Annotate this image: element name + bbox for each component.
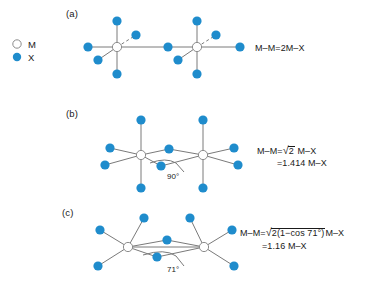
bond-c1-downleft [98,247,128,266]
bond-b1-downleft [105,155,141,165]
equation-a-lhs: M–M= [255,43,281,53]
atom-m [123,242,132,251]
atom-x-shared [164,144,173,153]
atom-x [112,16,121,25]
equation-b-rhs: M–X [298,146,317,156]
bond-b2-downright [203,155,238,165]
atom-x [229,143,238,152]
equation-c-line2: =1.16 M–X [262,241,307,251]
atom-x [235,42,244,51]
atom-x [105,143,114,152]
equation-c-radicand: 2(1−cos 71°) [271,228,326,238]
equation-c2-rhs: 1.16 M–X [267,241,306,251]
legend-m-marker [13,40,21,48]
equation-a-rhs: 2M–X [281,43,305,53]
equation-c-line1: M–M=√2(1−cos 71°)M–X [240,226,344,238]
equation-b2-rhs: 1.414 M–X [282,158,326,168]
atom-m [136,150,145,159]
atom-x-shared [156,161,165,170]
atom-x [93,55,102,64]
figure-root: M X (a) (b) (c) 90° 71° M–M=2M–X M–M=√2 … [0,0,377,283]
atom-x [233,160,242,169]
panel-c-structure [93,213,238,270]
panel-label-a: (a) [66,8,78,19]
legend-x-marker [13,53,21,61]
panel-a-structure [83,16,244,78]
atom-x [227,225,236,234]
atom-x [211,30,220,39]
atom-x-shared [162,235,171,244]
atom-x [93,261,102,270]
atom-x [192,16,201,25]
angle-leader-90 [176,163,184,172]
bond-c2-sharedtop [167,240,204,247]
angle-label-71: 71° [167,265,179,274]
atom-x-shared [152,252,161,261]
atom-x [198,115,207,124]
equation-a: M–M=2M–X [255,43,305,53]
bond-c2-downright [204,247,234,266]
atom-m [112,42,121,51]
atom-x [173,55,182,64]
atom-x [131,30,140,39]
bond-c1-sharedtop [128,240,167,247]
panel-b-structure [100,115,242,192]
atom-x [112,69,121,78]
legend-label-x: X [28,52,34,63]
atom-m [192,42,201,51]
panel-label-c: (c) [62,207,74,218]
legend-label-m: M [28,39,36,50]
panel-label-b: (b) [66,108,78,119]
atom-x [198,183,207,192]
equation-b-line1: M–M=√2 M–X [257,144,316,156]
atom-x [136,183,145,192]
equation-b-lhs: M–M= [257,146,283,156]
bond-b2-sharedtop [169,149,203,155]
atom-x [100,160,109,169]
legend-markers [13,40,21,61]
equation-c-lhs: M–M= [240,228,266,238]
atom-x [95,225,104,234]
atom-x [229,261,238,270]
equation-b-radicand: 2 [288,146,295,156]
equation-c-rhs: M–X [325,228,344,238]
equation-b-line2: =1.414 M–X [277,158,327,168]
atom-x [83,42,92,51]
atom-m [198,150,207,159]
atom-x [192,69,201,78]
angle-label-90: 90° [167,172,179,181]
atom-x [185,213,194,222]
atom-x-bridging [163,42,172,51]
structure-diagram [0,0,377,283]
atom-x [136,115,145,124]
atom-x [139,213,148,222]
atom-m [199,242,208,251]
